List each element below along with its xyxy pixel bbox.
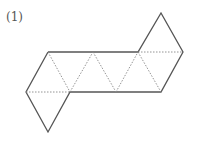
fold-line <box>138 52 161 92</box>
net-outline <box>26 13 183 132</box>
fold-line <box>93 52 116 92</box>
octahedron-net-diagram <box>0 0 197 142</box>
fold-line <box>116 52 138 92</box>
fold-line <box>48 52 70 92</box>
fold-line <box>70 52 93 92</box>
